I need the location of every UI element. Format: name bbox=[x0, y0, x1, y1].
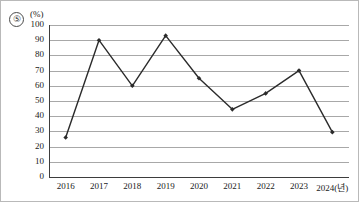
chart-figure: ⑤ (%) 0102030405060708090100 20162017201… bbox=[0, 0, 359, 202]
series-line bbox=[66, 36, 333, 138]
data-point-marker bbox=[63, 135, 68, 140]
data-series-svg bbox=[1, 1, 359, 202]
series-markers bbox=[63, 33, 334, 139]
plot-area: 0102030405060708090100 20162017201820192… bbox=[1, 1, 359, 202]
